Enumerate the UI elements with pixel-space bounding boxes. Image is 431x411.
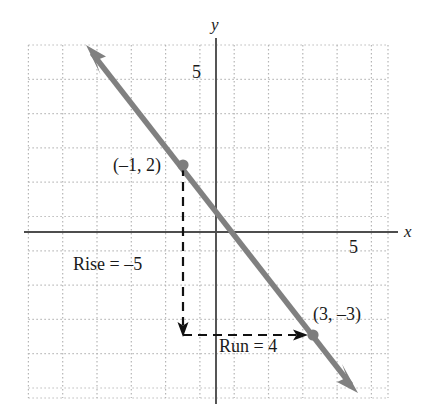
point-label-minus1-2: (–1, 2): [113, 156, 161, 174]
grid-vertical-lines: [28, 45, 388, 398]
y-axis-label: y: [211, 16, 219, 33]
point-label-3-minus3: (3, –3): [313, 305, 361, 323]
graph-figure: y x 5 5 (–1, 2) (3, –3) Rise = –5 Run = …: [0, 0, 431, 411]
data-point-marker-1: [177, 159, 188, 170]
run-annotation-label: Run = 4: [219, 337, 277, 355]
rise-dashed-arrow: [178, 167, 189, 337]
y-tick-label-5: 5: [192, 63, 201, 81]
grid-horizontal-lines: [28, 45, 388, 398]
x-tick-label-5: 5: [349, 238, 358, 256]
coordinate-plane-svg: [0, 0, 431, 411]
data-point-marker-2: [307, 329, 318, 340]
rise-annotation-label: Rise = –5: [73, 255, 142, 273]
x-axis-label: x: [404, 223, 412, 240]
